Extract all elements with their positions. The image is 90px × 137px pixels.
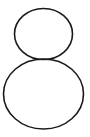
- digit-eight-figure: 8: [0, 0, 90, 137]
- top-loop: [15, 9, 73, 60]
- bottom-loop: [4, 59, 84, 129]
- digit-eight-icon: [0, 0, 90, 137]
